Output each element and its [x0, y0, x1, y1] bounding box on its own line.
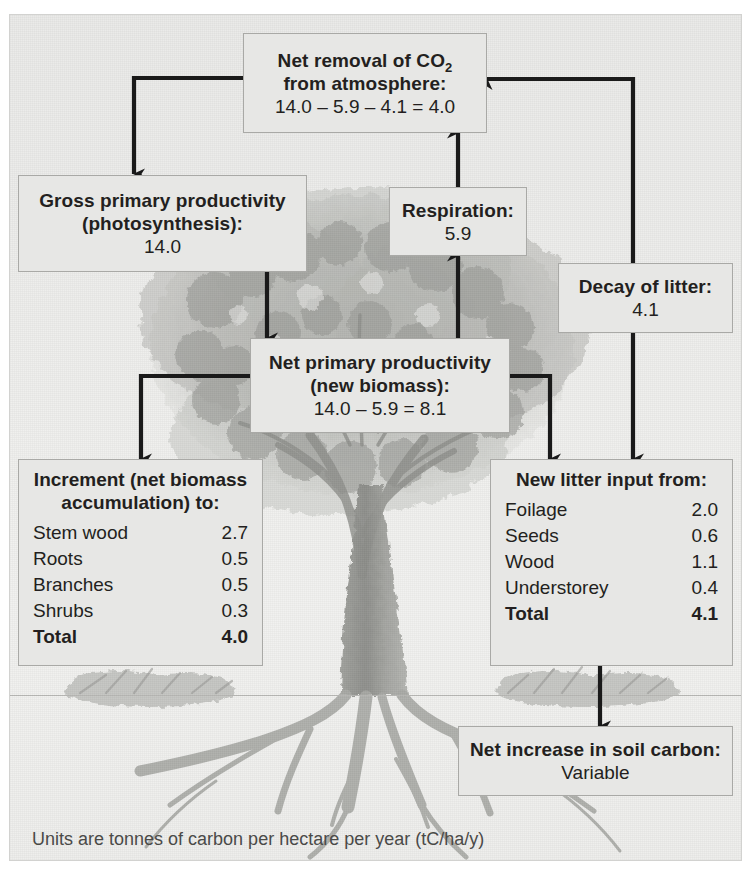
row-label: Branches	[33, 572, 113, 598]
net-removal-title-line1: Net removal of CO	[278, 50, 445, 71]
table-row: Foilage2.0	[505, 497, 718, 523]
net-primary-value: 14.0 – 5.9 = 8.1	[314, 397, 447, 420]
table-row: Shrubs0.3	[33, 598, 248, 624]
diagram-page: Net removal of CO2 from atmosphere: 14.0…	[0, 0, 755, 886]
increment-heading-line2: accumulation) to:	[33, 491, 248, 514]
row-label: Total	[33, 624, 77, 650]
net-primary-title-line1: Net primary productivity	[269, 351, 491, 374]
box-new-litter[interactable]: New litter input from: Foilage2.0Seeds0.…	[490, 459, 733, 666]
respiration-value: 5.9	[445, 222, 471, 245]
net-removal-title-line2: from atmosphere:	[283, 72, 446, 95]
box-increment[interactable]: Increment (net biomass accumulation) to:…	[18, 459, 263, 666]
table-row-total: Total4.0	[33, 624, 248, 650]
row-label: Wood	[505, 549, 554, 575]
table-row: Branches0.5	[33, 572, 248, 598]
diagram-scene: Net removal of CO2 from atmosphere: 14.0…	[9, 14, 742, 861]
net-primary-title-line2: (new biomass):	[310, 374, 450, 397]
increment-heading-line1: Increment (net biomass	[33, 468, 248, 491]
gross-primary-title-line2: (photosynthesis):	[82, 212, 243, 235]
table-row: Understorey0.4	[505, 575, 718, 601]
row-label: Shrubs	[33, 598, 93, 624]
box-respiration[interactable]: Respiration: 5.9	[389, 187, 527, 256]
increment-rows: Stem wood2.7Roots0.5Branches0.5Shrubs0.3…	[33, 520, 248, 650]
box-soil-carbon[interactable]: Net increase in soil carbon: Variable	[458, 726, 733, 796]
gross-primary-value: 14.0	[144, 235, 181, 258]
new-litter-rows: Foilage2.0Seeds0.6Wood1.1Understorey0.4T…	[505, 497, 718, 627]
row-value: 4.0	[222, 624, 248, 650]
respiration-title: Respiration:	[402, 199, 514, 222]
new-litter-heading: New litter input from:	[505, 468, 718, 491]
row-label: Understorey	[505, 575, 609, 601]
ground-line	[10, 695, 741, 696]
row-value: 2.0	[692, 497, 718, 523]
row-label: Stem wood	[33, 520, 128, 546]
box-decay-of-litter[interactable]: Decay of litter: 4.1	[558, 263, 733, 333]
row-label: Foilage	[505, 497, 567, 523]
table-row-total: Total4.1	[505, 601, 718, 627]
row-value: 2.7	[222, 520, 248, 546]
soil-carbon-value: Variable	[561, 761, 629, 784]
decay-title: Decay of litter:	[579, 275, 713, 298]
row-value: 0.3	[222, 598, 248, 624]
table-row: Stem wood2.7	[33, 520, 248, 546]
net-removal-title: Net removal of CO2	[278, 49, 453, 72]
row-label: Roots	[33, 546, 83, 572]
row-value: 1.1	[692, 549, 718, 575]
soil-carbon-title: Net increase in soil carbon:	[470, 738, 721, 761]
table-row: Roots0.5	[33, 546, 248, 572]
gross-primary-title-line1: Gross primary productivity	[39, 189, 286, 212]
row-value: 4.1	[692, 601, 718, 627]
row-label: Seeds	[505, 523, 559, 549]
row-value: 0.5	[222, 546, 248, 572]
row-label: Total	[505, 601, 549, 627]
box-gross-primary[interactable]: Gross primary productivity (photosynthes…	[18, 175, 307, 272]
decay-value: 4.1	[632, 298, 658, 321]
table-row: Seeds0.6	[505, 523, 718, 549]
net-removal-value: 14.0 – 5.9 – 4.1 = 4.0	[275, 95, 455, 118]
row-value: 0.5	[222, 572, 248, 598]
row-value: 0.6	[692, 523, 718, 549]
box-net-removal[interactable]: Net removal of CO2 from atmosphere: 14.0…	[243, 33, 487, 133]
box-net-primary[interactable]: Net primary productivity (new biomass): …	[250, 338, 510, 433]
units-caption: Units are tonnes of carbon per hectare p…	[32, 828, 484, 850]
row-value: 0.4	[692, 575, 718, 601]
table-row: Wood1.1	[505, 549, 718, 575]
